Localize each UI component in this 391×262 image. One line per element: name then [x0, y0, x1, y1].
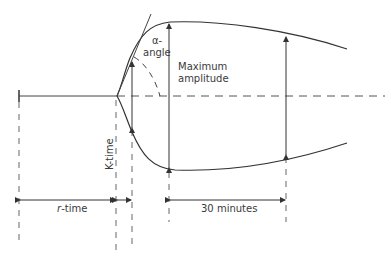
k-time-label: K-time	[104, 138, 116, 170]
teg-diagram	[0, 0, 391, 262]
alpha-label-line1: α-	[152, 35, 162, 47]
lower-trace	[117, 96, 347, 170]
max-amplitude-label-line1: Maximum	[178, 61, 227, 73]
alpha-dashed-arc	[134, 57, 160, 96]
thirty-minutes-label: 30 minutes	[201, 203, 257, 215]
max-amplitude-label-line2: amplitude	[178, 73, 229, 85]
r-time-rest: -time	[61, 203, 87, 214]
alpha-label-line2: angle	[143, 47, 171, 59]
r-time-label: r-time	[57, 203, 87, 215]
